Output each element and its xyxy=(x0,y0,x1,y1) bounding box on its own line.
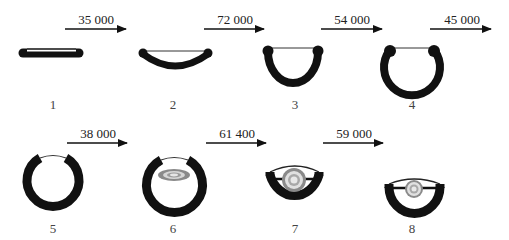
diagram-canvas xyxy=(0,0,509,240)
stage-4-open-ring xyxy=(384,45,440,95)
stage-2-shallow-cup xyxy=(139,49,213,67)
stage-6-ring-with-disc xyxy=(147,158,203,213)
stage-5-closed-ring xyxy=(27,156,79,207)
transition-label-5-6: 38 000 xyxy=(68,126,128,142)
stage-number-4: 4 xyxy=(402,97,422,113)
stage-number-2: 2 xyxy=(163,97,183,113)
transition-label-6-7: 61 400 xyxy=(207,126,267,142)
transition-label-7-8: 59 000 xyxy=(324,126,384,142)
stage-7-cut-ring-with-disc xyxy=(270,166,319,196)
transition-label-1-2: 35 000 xyxy=(66,12,126,28)
stage-number-7: 7 xyxy=(285,221,305,237)
stage-number-3: 3 xyxy=(285,97,305,113)
stage-3-half-ring xyxy=(263,46,324,84)
transition-label-3-4: 54 000 xyxy=(322,12,382,28)
stage-number-5: 5 xyxy=(43,221,63,237)
stage-number-6: 6 xyxy=(163,221,183,237)
stage-8-shallow-cut-ring-with-disc xyxy=(389,179,440,213)
stage-number-1: 1 xyxy=(43,97,63,113)
stage-1-flat-bar xyxy=(23,49,79,53)
transition-label-2-3: 72 000 xyxy=(205,12,265,28)
transition-label-4-5: 45 000 xyxy=(432,12,492,28)
stage-number-8: 8 xyxy=(402,221,422,237)
